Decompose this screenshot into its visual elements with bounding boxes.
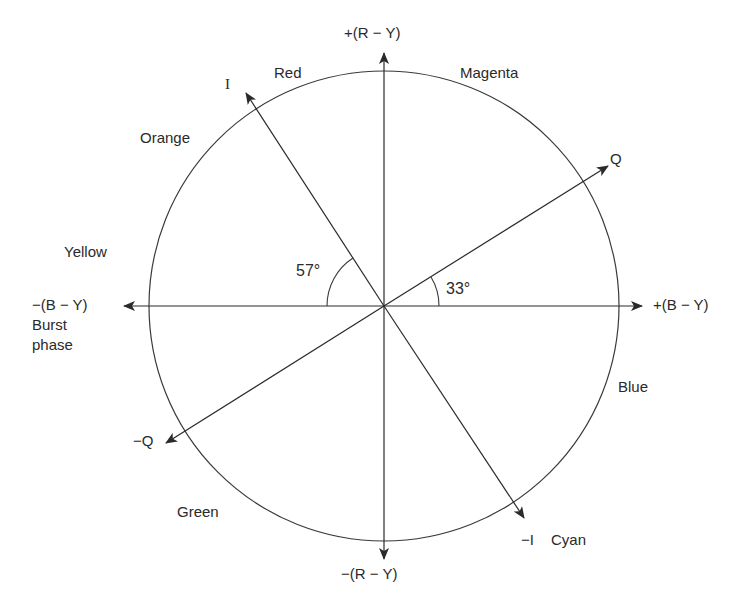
- label-plus-r-y: +(R − Y): [344, 24, 400, 42]
- label-q: Q: [610, 150, 622, 168]
- label-plus-b-y: +(B − Y): [653, 296, 709, 314]
- q-axis: [384, 166, 608, 306]
- label-33-degrees: 33°: [446, 280, 470, 298]
- label-orange: Orange: [140, 129, 190, 147]
- angle-arc-33: [431, 277, 439, 306]
- minus-i-axis: [384, 306, 524, 518]
- label-minus-i: −I: [521, 531, 534, 549]
- label-burst: Burst: [32, 316, 67, 334]
- angle-arc-57: [327, 258, 353, 306]
- label-minus-b-y: −(B − Y): [32, 296, 88, 314]
- phase-diagram: [0, 0, 756, 610]
- label-minus-r-y: −(R − Y): [341, 565, 397, 583]
- minus-q-axis: [166, 306, 384, 443]
- label-yellow: Yellow: [64, 243, 107, 261]
- label-phase: phase: [32, 336, 73, 354]
- label-57-degrees: 57°: [296, 262, 320, 280]
- label-cyan: Cyan: [551, 531, 586, 549]
- label-green: Green: [177, 503, 219, 521]
- label-magenta: Magenta: [460, 64, 518, 82]
- label-minus-q: −Q: [133, 432, 153, 450]
- label-red: Red: [274, 64, 302, 82]
- label-i: I: [225, 75, 230, 93]
- label-blue: Blue: [618, 378, 648, 396]
